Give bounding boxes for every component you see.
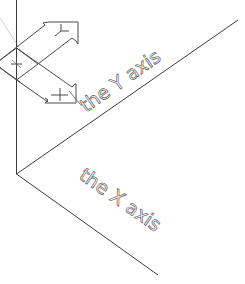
y-axis-line	[17, 20, 239, 174]
x-axis-label: the X axis	[76, 163, 166, 235]
faint-construction-line	[0, 18, 22, 52]
ucs-origin-cross-icon	[11, 58, 22, 70]
ucs-y-arrow	[0, 22, 78, 64]
isometric-axes-diagram: the Y axis the X axis	[0, 0, 245, 284]
ucs-icon	[0, 22, 80, 104]
ucs-y-glyph-icon	[55, 24, 69, 36]
